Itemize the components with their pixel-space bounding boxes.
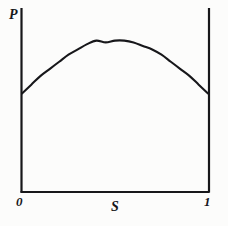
figure-container: P S 0 1 xyxy=(0,0,228,226)
x-tick-label-left: 0 xyxy=(16,195,23,208)
y-axis-label: P xyxy=(9,8,18,22)
plot-area xyxy=(0,0,228,226)
data-curve xyxy=(22,40,208,93)
x-axis-label: S xyxy=(111,200,119,214)
x-tick-label-right: 1 xyxy=(204,195,211,208)
